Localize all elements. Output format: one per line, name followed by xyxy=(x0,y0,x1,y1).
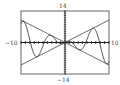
function-plot xyxy=(0,0,120,85)
